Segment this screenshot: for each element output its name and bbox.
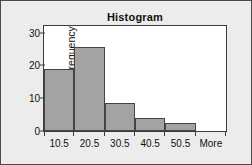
histogram-bar bbox=[135, 118, 165, 131]
y-tick-mark bbox=[40, 65, 45, 66]
y-tick-label: 0 bbox=[34, 126, 40, 137]
histogram-figure: Histogram Frequency 0102030 10.520.530.5… bbox=[0, 0, 252, 165]
x-tick-mark bbox=[134, 131, 135, 136]
x-tick-label: More bbox=[199, 138, 222, 149]
x-tick-mark bbox=[225, 131, 226, 136]
y-tick-label: 20 bbox=[29, 60, 40, 71]
x-tick-mark bbox=[164, 131, 165, 136]
x-tick-mark bbox=[104, 131, 105, 136]
plot-inner: Frequency 0102030 10.520.530.540.550.5Mo… bbox=[44, 26, 226, 131]
histogram-bar bbox=[165, 123, 195, 131]
x-tick-label: 40.5 bbox=[140, 138, 159, 149]
y-tick-mark bbox=[40, 32, 45, 33]
x-tick-mark bbox=[73, 131, 74, 136]
histogram-bar bbox=[44, 69, 74, 131]
x-tick-label: 30.5 bbox=[110, 138, 129, 149]
histogram-bar bbox=[74, 47, 104, 131]
histogram-bar bbox=[105, 103, 135, 131]
x-tick-label: 20.5 bbox=[80, 138, 99, 149]
x-tick-label: 10.5 bbox=[49, 138, 68, 149]
y-tick-label: 30 bbox=[29, 27, 40, 38]
x-tick-mark bbox=[195, 131, 196, 136]
y-tick-label: 10 bbox=[29, 93, 40, 104]
x-tick-label: 50.5 bbox=[171, 138, 190, 149]
x-tick-mark bbox=[44, 131, 45, 136]
plot-area: Frequency 0102030 10.520.530.540.550.5Mo… bbox=[43, 25, 227, 132]
